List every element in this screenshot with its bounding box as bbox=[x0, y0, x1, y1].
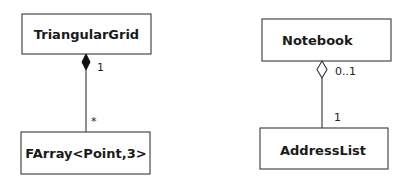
multiplicity-part-addresslist: 1 bbox=[334, 111, 341, 124]
hollow-diamond-icon bbox=[317, 61, 327, 78]
class-name-addresslist: AddressList bbox=[280, 143, 366, 158]
uml-diagram-canvas: TriangularGrid 1 * FArray<Point,3> Noteb… bbox=[0, 0, 410, 184]
class-name-notebook: Notebook bbox=[282, 33, 353, 48]
multiplicity-whole-triangulargrid: 1 bbox=[97, 61, 104, 74]
class-name-triangulargrid: TriangularGrid bbox=[34, 27, 139, 42]
class-name-farray: FArray<Point,3> bbox=[25, 146, 146, 161]
aggregation-diagram: Notebook 0..1 1 AddressList bbox=[260, 19, 391, 169]
multiplicity-part-farray: * bbox=[91, 115, 97, 128]
composition-diagram: TriangularGrid 1 * FArray<Point,3> bbox=[21, 14, 151, 174]
filled-diamond-icon bbox=[82, 54, 90, 70]
multiplicity-whole-notebook: 0..1 bbox=[335, 65, 356, 78]
